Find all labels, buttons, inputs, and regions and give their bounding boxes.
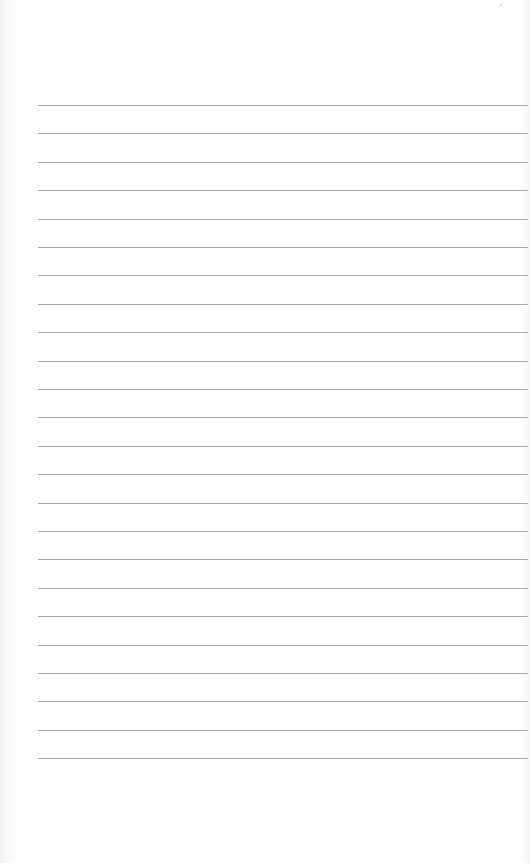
ruled-line	[38, 559, 528, 560]
ruled-line	[38, 417, 528, 418]
ruled-line	[38, 219, 528, 220]
ruled-line	[38, 389, 528, 390]
ruled-line	[38, 446, 528, 447]
ruled-line	[38, 616, 528, 617]
ruled-line	[38, 162, 528, 163]
ruled-line	[38, 758, 528, 759]
paper-speck	[500, 4, 502, 6]
ruled-line	[38, 503, 528, 504]
ruled-line	[38, 673, 528, 674]
ruled-line	[38, 361, 528, 362]
ruled-line	[38, 304, 528, 305]
ruled-line	[38, 701, 528, 702]
ruled-line	[38, 730, 528, 731]
ruled-line	[38, 474, 528, 475]
ruled-line	[38, 332, 528, 333]
ruled-line	[38, 531, 528, 532]
ruled-line	[38, 645, 528, 646]
ruled-line	[38, 133, 528, 134]
ruled-line	[38, 275, 528, 276]
ruled-line	[38, 190, 528, 191]
ruled-line	[38, 588, 528, 589]
ruled-line	[38, 105, 528, 106]
ruled-line	[38, 247, 528, 248]
lined-paper-page	[0, 0, 530, 863]
